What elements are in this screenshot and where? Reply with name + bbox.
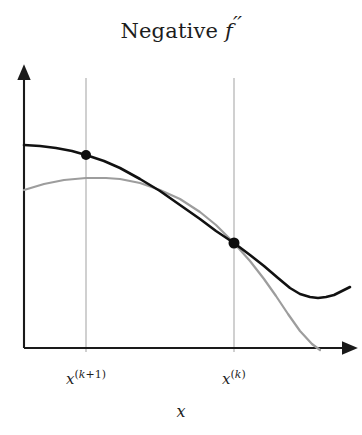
x-tick-label-x-k: x(k) <box>222 368 246 388</box>
x-axis-label: x <box>0 402 362 421</box>
sup-offset: +1 <box>85 368 101 381</box>
x-tick-label-x-k-plus-1: x(k+1) <box>66 368 106 388</box>
data-point-group <box>81 150 240 249</box>
x-tick-superscript: (k) <box>230 368 245 381</box>
curve-quadratic-approximation <box>24 178 320 350</box>
axis-group <box>24 78 344 348</box>
curve-objective-function <box>24 145 350 298</box>
sup-close-paren: ) <box>241 368 245 381</box>
series-group <box>24 145 350 350</box>
figure-negative-second-derivative: Negative f′′ x(k+1) x(k) x <box>0 0 362 435</box>
plot-canvas <box>0 0 362 435</box>
gridline-group <box>86 78 234 352</box>
point-x-k-plus-1 <box>81 150 91 160</box>
sup-close-paren: ) <box>102 368 106 381</box>
x-tick-superscript: (k+1) <box>74 368 105 381</box>
point-x-k <box>229 238 240 249</box>
